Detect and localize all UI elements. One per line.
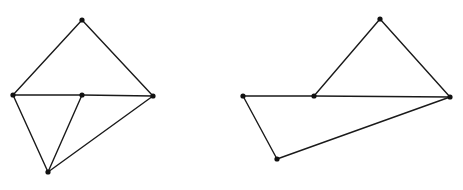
left-graph (10, 17, 155, 174)
edge-A-D (380, 19, 450, 97)
vertex-B (10, 92, 15, 97)
edge-E-D (277, 97, 450, 159)
edge-A-C (314, 19, 380, 96)
edge-D-E (48, 96, 153, 172)
vertex-A (377, 16, 382, 21)
vertex-C (311, 93, 316, 98)
vertex-D (447, 94, 452, 99)
edge-B-E (13, 95, 48, 172)
vertex-C (79, 92, 84, 97)
vertex-A (79, 17, 84, 22)
edge-B-E (243, 96, 277, 159)
vertex-B (240, 93, 245, 98)
vertex-E (45, 169, 50, 174)
edge-C-D (82, 95, 153, 96)
graph-diagram (0, 0, 463, 190)
edge-A-D (82, 20, 153, 96)
vertex-D (150, 93, 155, 98)
vertex-E (274, 156, 279, 161)
right-graph (240, 16, 452, 161)
edge-C-D (314, 96, 450, 97)
edge-A-B (13, 20, 82, 95)
